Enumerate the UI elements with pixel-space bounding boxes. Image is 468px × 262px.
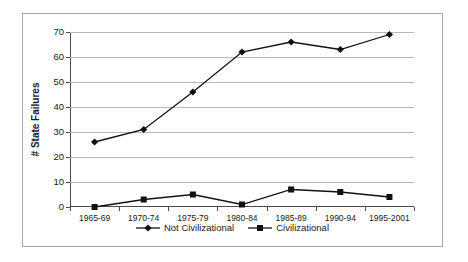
data-point-marker	[337, 189, 343, 195]
y-axis-title: # State Failures	[29, 32, 43, 207]
y-tick-label: 40	[53, 102, 64, 112]
data-point-marker	[190, 192, 196, 198]
y-axis-title-label: # State Failures	[31, 83, 42, 157]
y-tick-label: 60	[53, 52, 64, 62]
data-point-marker	[239, 202, 245, 208]
legend-marker-diamond-icon	[136, 223, 160, 233]
x-tick-mark	[168, 207, 169, 211]
x-tick-mark	[217, 207, 218, 211]
legend-entry: Civilizational	[248, 222, 329, 233]
x-tick-mark	[316, 207, 317, 211]
x-tick-mark	[414, 207, 415, 211]
legend-marker-square-icon	[248, 223, 272, 233]
y-tick-label: 70	[53, 27, 64, 37]
data-point-marker	[141, 197, 147, 203]
data-point-marker	[288, 187, 294, 193]
chart-legend: Not CivilizationalCivilizational	[23, 222, 442, 233]
x-tick-mark	[267, 207, 268, 211]
y-tick-label: 50	[53, 77, 64, 87]
data-point-marker	[337, 46, 344, 53]
x-tick-mark	[70, 207, 71, 211]
legend-entry: Not Civilizational	[136, 222, 234, 233]
data-point-marker	[386, 194, 392, 200]
x-tick-mark	[365, 207, 366, 211]
y-tick-label: 10	[53, 177, 64, 187]
y-tick-label: 30	[53, 127, 64, 137]
data-point-marker	[386, 31, 393, 38]
y-tick-label: 20	[53, 152, 64, 162]
data-point-marker	[92, 204, 98, 210]
chart-figure: # State Failures 010203040506070 1965-69…	[22, 13, 443, 247]
x-tick-mark	[119, 207, 120, 211]
data-point-marker	[288, 38, 295, 45]
legend-label: Civilizational	[276, 222, 329, 233]
data-point-marker	[91, 138, 98, 145]
plot-area: 010203040506070 1965-691970-741975-79198…	[70, 32, 414, 207]
legend-label: Not Civilizational	[164, 222, 234, 233]
y-tick-label: 0	[59, 202, 64, 212]
series-plot	[70, 32, 414, 207]
